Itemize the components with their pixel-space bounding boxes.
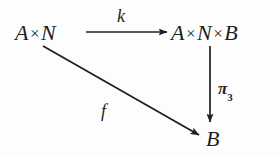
node-product-factor-a: A xyxy=(171,20,185,45)
node-source-factor-a: A xyxy=(15,20,29,45)
node-product: A×N×B xyxy=(171,22,238,44)
node-product-factor-b: B xyxy=(224,20,238,45)
k-arrow-label: k xyxy=(117,7,125,25)
k-arrow-label-text: k xyxy=(117,6,125,26)
times-symbol: × xyxy=(29,24,41,43)
f-arrow xyxy=(43,46,199,135)
node-target: B xyxy=(206,128,220,150)
node-product-factor-n: N xyxy=(197,20,212,45)
f-arrow-label-text: f xyxy=(101,101,106,121)
node-target-label: B xyxy=(206,126,220,151)
times-symbol: × xyxy=(185,24,197,43)
node-source: A×N xyxy=(15,22,56,44)
pi3-arrow-label-subscript: 3 xyxy=(227,91,233,103)
pi3-arrow-label: π3 xyxy=(218,80,233,100)
commutative-diagram: A×N A×N×B B k π3 f xyxy=(0,0,280,156)
times-symbol: × xyxy=(212,24,224,43)
pi3-arrow-label-text: π xyxy=(218,79,227,98)
f-arrow-label: f xyxy=(101,102,106,120)
node-source-factor-n: N xyxy=(41,20,56,45)
